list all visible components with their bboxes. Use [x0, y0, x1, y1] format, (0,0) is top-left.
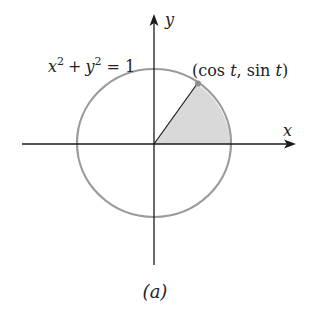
y-axis-label: y: [164, 10, 175, 29]
point-label-close: ): [282, 61, 288, 80]
eq-x: x: [48, 57, 57, 76]
figure-caption: (a): [143, 281, 168, 302]
unit-circle-diagram: y x x2+y2=1 (cos t, sin t) (a): [0, 0, 318, 319]
eq-rhs: 1: [125, 57, 135, 76]
point-label-mid: , sin: [237, 61, 276, 80]
eq-y-exp: 2: [94, 55, 101, 68]
point-label-open: (cos: [192, 61, 230, 80]
shaded-sector: [154, 84, 230, 144]
x-axis-label: x: [283, 121, 292, 140]
circle-equation: x2+y2=1: [48, 55, 135, 76]
point-label: (cos t, sin t): [192, 61, 288, 80]
eq-equals: =: [106, 57, 119, 76]
point-marker: [195, 81, 201, 87]
eq-x-exp: 2: [57, 55, 64, 68]
eq-plus: +: [68, 57, 81, 76]
